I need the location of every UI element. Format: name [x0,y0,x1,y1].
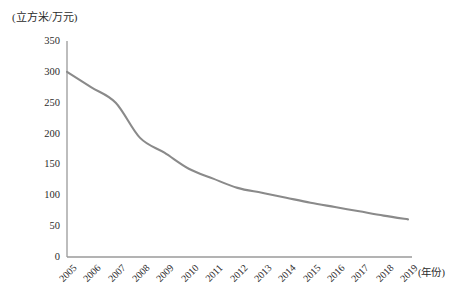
x-axis-title: (年份) [418,264,445,279]
plot-area [0,0,468,302]
axes [67,41,412,257]
chart-figure: (立方米/万元) 050100150200250300350 200520062… [0,0,468,302]
data-series-line [67,72,408,219]
